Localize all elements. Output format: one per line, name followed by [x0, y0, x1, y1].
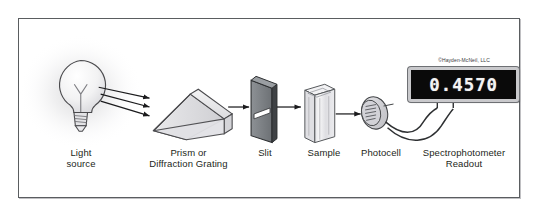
slit-art: [251, 76, 277, 142]
copyright-notice: ©Hayden-McNeil, LLC: [404, 57, 524, 63]
label-slit: Slit: [235, 147, 295, 158]
readout-value: 0.4570: [429, 75, 498, 95]
label-readout: Spectrophotometer Readout: [404, 147, 524, 169]
label-light-source: Light source: [41, 147, 121, 169]
label-prism: Prism or Diffraction Grating: [126, 147, 251, 169]
connection-wires: [386, 108, 454, 140]
diagram-artwork: [19, 19, 519, 197]
figure-frame: ©Hayden-McNeil, LLC 0.4570 Light source …: [18, 18, 520, 198]
diagram-stage: ©Hayden-McNeil, LLC 0.4570 Light source …: [19, 19, 519, 197]
sample-cuvette-art: [305, 84, 335, 142]
spectrophotometer-readout-display: 0.4570: [408, 67, 519, 102]
prism-art: [153, 89, 232, 139]
photocell-art: [358, 94, 393, 131]
